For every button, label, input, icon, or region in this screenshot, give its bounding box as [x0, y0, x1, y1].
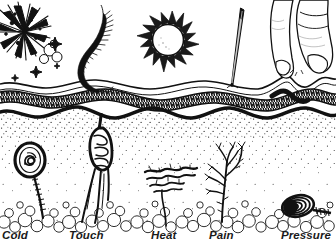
skin-diagram-illustration	[0, 0, 336, 245]
label-cold: Cold	[2, 228, 28, 242]
label-heat: Heat	[151, 228, 176, 242]
label-row: Cold Touch Heat Pain Pressure	[0, 228, 336, 245]
skin-receptors-figure: Cold Touch Heat Pain Pressure	[0, 0, 336, 245]
label-touch: Touch	[69, 228, 104, 242]
label-pressure: Pressure	[281, 228, 331, 242]
label-pain: Pain	[209, 228, 234, 242]
